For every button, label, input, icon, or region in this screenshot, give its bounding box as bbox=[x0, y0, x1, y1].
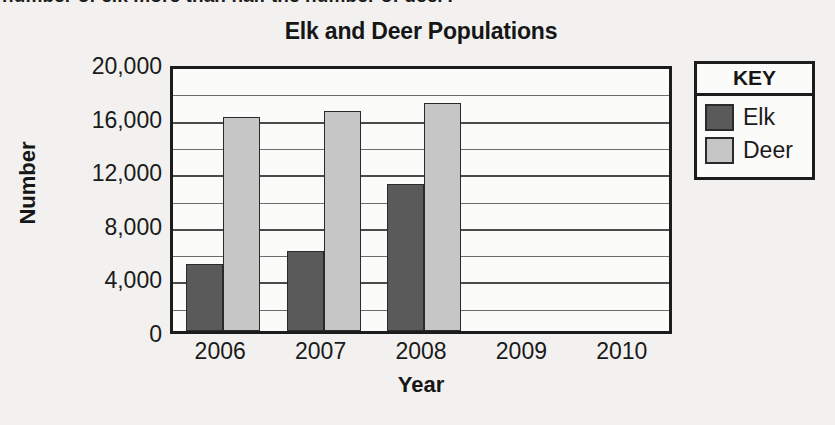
legend-swatch-deer-icon bbox=[705, 137, 734, 164]
legend-label: Deer bbox=[743, 139, 793, 162]
legend-label: Elk bbox=[743, 106, 775, 129]
bar-deer-2007 bbox=[324, 111, 361, 331]
legend-entry-deer: Deer bbox=[705, 137, 812, 164]
legend-entry-elk: Elk bbox=[705, 104, 812, 131]
y-axis-tick-labels: 04,0008,00012,00016,00020,000 bbox=[32, 0, 168, 425]
bar-deer-2006 bbox=[223, 117, 260, 331]
x-axis-tick-label: 2008 bbox=[395, 338, 446, 365]
y-axis-tick-label: 8,000 bbox=[38, 213, 168, 240]
y-axis-tick-label: 12,000 bbox=[38, 160, 168, 187]
x-axis-tick-label: 2007 bbox=[295, 338, 346, 365]
x-axis-tick-label: 2010 bbox=[596, 338, 647, 365]
x-axis-tick-label: 2006 bbox=[195, 338, 246, 365]
bar-elk-2008 bbox=[387, 184, 424, 331]
legend-swatch-elk-icon bbox=[705, 104, 734, 131]
y-axis-tick-label: 16,000 bbox=[38, 106, 168, 133]
plot-area bbox=[170, 66, 672, 334]
y-axis-tick-label: 0 bbox=[38, 321, 168, 348]
legend-title: KEY bbox=[697, 64, 812, 96]
bar-chart: Elk and Deer Populations Number 04,0008,… bbox=[0, 0, 835, 425]
y-axis-tick-label: 20,000 bbox=[38, 53, 168, 80]
bar-elk-2006 bbox=[186, 264, 223, 331]
x-axis-tick-label: 2009 bbox=[496, 338, 547, 365]
bar-deer-2008 bbox=[424, 103, 461, 331]
legend-entries: ElkDeer bbox=[697, 96, 812, 177]
legend-box: KEY ElkDeer bbox=[694, 61, 815, 180]
y-axis-tick-label: 4,000 bbox=[38, 267, 168, 294]
bar-group-container bbox=[173, 69, 669, 331]
bar-elk-2007 bbox=[287, 251, 324, 331]
x-axis-tick-labels: 20062007200820092010 bbox=[170, 338, 672, 372]
x-axis-label: Year bbox=[170, 372, 672, 398]
chart-title: Elk and Deer Populations bbox=[170, 18, 672, 45]
